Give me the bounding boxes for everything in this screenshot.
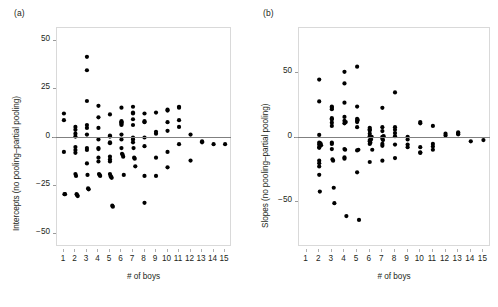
data-point — [96, 147, 100, 151]
data-point — [133, 164, 137, 168]
data-point — [96, 104, 100, 108]
x-tick-mark — [178, 249, 179, 252]
y-tick-mark — [53, 233, 56, 234]
data-point — [131, 117, 135, 121]
data-point — [96, 126, 100, 130]
data-point — [108, 112, 112, 116]
data-point — [431, 148, 435, 152]
panel-b-label: (b) — [263, 8, 274, 18]
x-tick-mark — [318, 249, 319, 252]
data-point — [165, 120, 169, 124]
x-tick-mark — [167, 249, 168, 252]
data-point — [87, 187, 91, 191]
data-point — [73, 151, 77, 155]
x-tick-mark — [419, 249, 420, 252]
x-tick-mark — [201, 249, 202, 252]
data-point — [319, 143, 323, 147]
y-tick-label: 25 — [22, 82, 50, 91]
data-point — [393, 156, 397, 160]
data-point — [355, 125, 359, 129]
data-point — [85, 68, 89, 72]
data-point — [122, 173, 126, 177]
data-point — [108, 159, 112, 163]
data-point — [85, 99, 89, 103]
x-tick-mark — [97, 249, 98, 252]
data-point — [469, 139, 473, 143]
data-point — [342, 81, 346, 85]
data-point — [108, 141, 112, 145]
data-point — [110, 176, 114, 180]
x-tick-mark — [120, 249, 121, 252]
x-tick-mark — [407, 249, 408, 252]
y-tick-label: 50 — [264, 66, 292, 75]
panel-a-y-axis-label: Intercepts (no pooling–partial pooling) — [12, 96, 21, 231]
data-point — [332, 186, 336, 190]
data-point — [177, 142, 181, 146]
data-point — [154, 174, 158, 178]
data-point — [317, 77, 321, 81]
data-point — [380, 159, 384, 163]
data-point — [119, 106, 123, 110]
data-point — [96, 156, 100, 160]
data-point — [131, 146, 135, 150]
data-point — [96, 137, 100, 141]
y-tick-label: −50 — [264, 195, 292, 204]
data-point — [98, 174, 102, 178]
data-point — [154, 132, 158, 136]
x-tick-mark — [457, 249, 458, 252]
x-tick-mark — [224, 249, 225, 252]
y-tick-mark — [53, 185, 56, 186]
panel-a-label: (a) — [14, 8, 25, 18]
data-point — [131, 105, 135, 109]
x-tick-mark — [432, 249, 433, 252]
data-point — [62, 150, 66, 154]
data-point — [380, 144, 384, 148]
y-tick-mark — [295, 201, 298, 202]
data-point — [73, 128, 77, 132]
x-tick-mark — [369, 249, 370, 252]
data-point — [76, 194, 80, 198]
data-point — [211, 142, 215, 146]
data-point — [142, 111, 146, 115]
data-point — [85, 126, 89, 130]
panel-b: (b) Slopes (no pooling–partial pooling) … — [249, 0, 498, 307]
data-point — [318, 190, 322, 194]
panel-a-x-axis-label: # of boys — [56, 272, 231, 281]
x-tick-mark — [331, 249, 332, 252]
data-point — [133, 157, 137, 161]
y-tick-mark — [295, 72, 298, 73]
data-point — [393, 142, 397, 146]
data-point — [96, 115, 100, 119]
data-point — [381, 138, 385, 142]
x-tick-mark — [356, 249, 357, 252]
data-point — [393, 90, 397, 94]
data-point — [200, 140, 204, 144]
data-point — [356, 118, 360, 122]
data-point — [121, 155, 125, 159]
data-point — [380, 129, 384, 133]
panel-a-zero-reference-line — [52, 137, 231, 138]
y-tick-mark — [295, 137, 298, 138]
data-point — [85, 161, 89, 165]
panel-b-points-layer — [299, 28, 491, 247]
y-tick-label: −25 — [22, 179, 50, 188]
data-point — [380, 106, 384, 110]
data-point — [165, 109, 169, 113]
panel-b-zero-reference-line — [294, 137, 490, 138]
x-tick-mark — [86, 249, 87, 252]
data-point — [355, 104, 359, 108]
x-tick-mark — [470, 249, 471, 252]
data-point — [418, 145, 422, 149]
data-point — [62, 111, 66, 115]
data-point — [355, 65, 359, 69]
x-tick-mark — [132, 249, 133, 252]
data-point — [177, 118, 181, 122]
data-point — [344, 120, 348, 124]
y-tick-label: 0 — [264, 131, 292, 140]
data-point — [111, 205, 115, 209]
data-point — [154, 110, 158, 114]
data-point — [85, 148, 89, 152]
data-point — [63, 192, 67, 196]
x-tick-mark — [74, 249, 75, 252]
x-tick-mark — [381, 249, 382, 252]
